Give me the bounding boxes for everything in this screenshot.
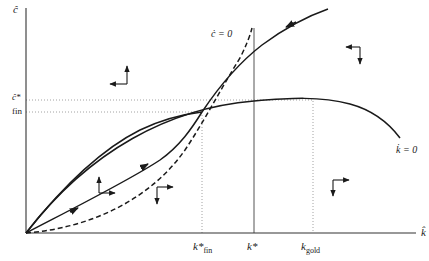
direction-arrows bbox=[99, 47, 360, 204]
arrow-pair-upper-left bbox=[110, 66, 127, 84]
y-axis-label: ĉ bbox=[13, 4, 18, 15]
saddle-path-lower-concave bbox=[26, 112, 202, 233]
arrow-pair-upper-right bbox=[346, 47, 360, 64]
phase-diagram bbox=[0, 0, 429, 261]
x-tick-k-gold: kgold bbox=[301, 241, 320, 255]
saddle-path-upper-arm bbox=[202, 9, 328, 112]
k-dot-zero-label: k̇ = 0 bbox=[396, 145, 417, 155]
c-dot-zero-label: ċ = 0 bbox=[211, 29, 232, 39]
axes bbox=[26, 8, 416, 233]
x-axis-label: k̂ bbox=[421, 227, 426, 238]
transition-path bbox=[26, 112, 202, 233]
k-dot-zero-curve bbox=[26, 98, 400, 233]
x-tick-k-star-fin: k*fin bbox=[193, 241, 212, 255]
arrow-pair-lower-middle bbox=[157, 187, 173, 204]
y-tick-c-fin: fin bbox=[12, 107, 22, 116]
arrow-pair-lower-right bbox=[333, 180, 349, 196]
y-tick-c-star: ĉ* bbox=[12, 93, 21, 102]
x-tick-k-star: k* bbox=[247, 241, 257, 252]
